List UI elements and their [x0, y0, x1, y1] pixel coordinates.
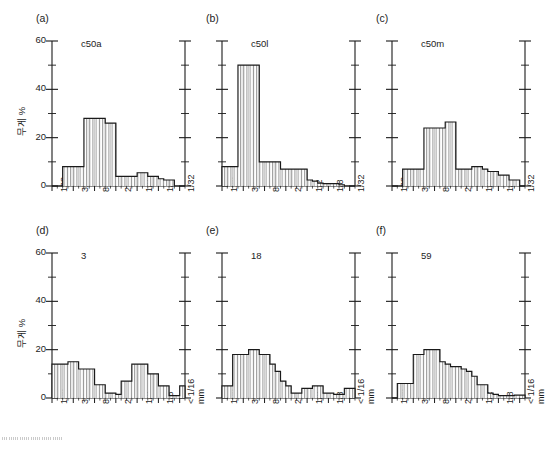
histogram-bar: [73, 167, 78, 186]
histogram-bar: [504, 175, 509, 186]
plot-area: [378, 239, 539, 412]
histogram-bar: [111, 393, 116, 398]
histogram-bar: [111, 123, 116, 186]
histogram-bar: [121, 176, 126, 186]
histogram-bar: [408, 169, 413, 186]
histogram-bar: [482, 385, 487, 398]
histogram-bar: [68, 362, 73, 398]
histogram-bar: [312, 386, 317, 398]
histogram-bar: [482, 169, 487, 186]
histogram-bar: [472, 376, 477, 398]
histogram-bar: [79, 167, 84, 186]
histogram-bar: [57, 364, 62, 398]
histogram-bar: [100, 385, 105, 398]
histogram-bar: [456, 169, 461, 186]
histogram-bar: [451, 367, 456, 398]
plot-area: [38, 27, 199, 200]
histogram-bar: [73, 362, 78, 398]
histogram-bar: [259, 355, 264, 399]
histogram-bar: [488, 393, 493, 398]
histogram-bar: [265, 162, 270, 186]
histogram-bar: [493, 172, 498, 187]
histogram-bar: [286, 386, 291, 398]
histogram-bar: [132, 176, 137, 186]
panel-letter-label: (b): [206, 12, 219, 24]
y-axis-title: 무게 %: [14, 318, 28, 347]
scan-artifact: [2, 437, 64, 440]
histogram-bar: [52, 364, 57, 398]
histogram-bar: [164, 180, 169, 186]
y-axis-title: 무게 %: [14, 106, 28, 135]
histogram-bar: [403, 169, 408, 186]
histogram-bar: [440, 128, 445, 186]
histogram-bar: [84, 118, 89, 186]
histogram-bar: [514, 180, 519, 186]
histogram-bar: [222, 167, 227, 186]
histogram-bar: [79, 369, 84, 398]
histogram-bar: [461, 169, 466, 186]
histogram-bar: [233, 167, 238, 186]
histogram-bar: [137, 364, 142, 398]
histogram-bar: [302, 388, 307, 398]
histogram-bar: [466, 371, 471, 398]
histogram-bar: [243, 65, 248, 186]
histogram-bar: [148, 374, 153, 398]
histogram-bar: [126, 176, 131, 186]
histogram-bar: [307, 180, 312, 186]
panel-letter-label: (f): [376, 224, 386, 236]
histogram-bar: [312, 181, 317, 186]
histogram-bar: [116, 176, 121, 186]
histogram-bar: [429, 350, 434, 398]
histogram-bar: [180, 386, 185, 398]
histogram-bar: [249, 65, 254, 186]
histogram-bar: [169, 180, 174, 186]
histogram-bar: [105, 393, 110, 398]
histogram-bar: [424, 350, 429, 398]
histogram-bar: [95, 118, 100, 186]
panel-letter-label: (a): [36, 12, 49, 24]
histogram-bar: [89, 118, 94, 186]
panel-letter-label: (c): [376, 12, 388, 24]
histogram-bar: [243, 355, 248, 399]
histogram-bar: [132, 364, 137, 398]
histogram-bar: [227, 167, 232, 186]
histogram-bar: [472, 167, 477, 186]
histogram-bar: [148, 176, 153, 186]
panel-letter-label: (d): [36, 224, 49, 236]
histogram-bar: [142, 364, 147, 398]
histogram-bar: [445, 364, 450, 398]
histogram-bar: [445, 122, 450, 186]
histogram-bar: [222, 386, 227, 398]
histogram-bar: [413, 169, 418, 186]
histogram-bar: [281, 381, 286, 398]
histogram-bar: [259, 162, 264, 186]
histogram-bar: [84, 369, 89, 398]
histogram-bar: [270, 364, 275, 398]
histogram-bar: [451, 122, 456, 186]
histogram-bar: [291, 393, 296, 398]
histogram-bar: [121, 381, 126, 398]
histogram-bar: [100, 118, 105, 186]
histogram-bar: [498, 175, 503, 186]
histogram-bar: [318, 386, 323, 398]
histogram-bar: [323, 393, 328, 398]
plot-area: [208, 239, 369, 412]
histogram-bar: [63, 364, 68, 398]
histogram-bar: [477, 167, 482, 186]
histogram-bar: [126, 381, 131, 398]
histogram-bar: [296, 393, 301, 398]
histogram-bar: [89, 369, 94, 398]
histogram-bar: [275, 371, 280, 398]
histogram-bar: [435, 128, 440, 186]
histogram-bar: [328, 393, 333, 398]
histogram-bar: [275, 162, 280, 186]
histogram-bar: [153, 374, 158, 398]
histogram-bar: [281, 169, 286, 186]
histogram-bar: [413, 355, 418, 399]
histogram-bar: [238, 355, 243, 399]
histogram-bar: [419, 355, 424, 399]
histogram-bar: [435, 350, 440, 398]
histogram-bar: [307, 388, 312, 398]
histogram-bar: [461, 369, 466, 398]
